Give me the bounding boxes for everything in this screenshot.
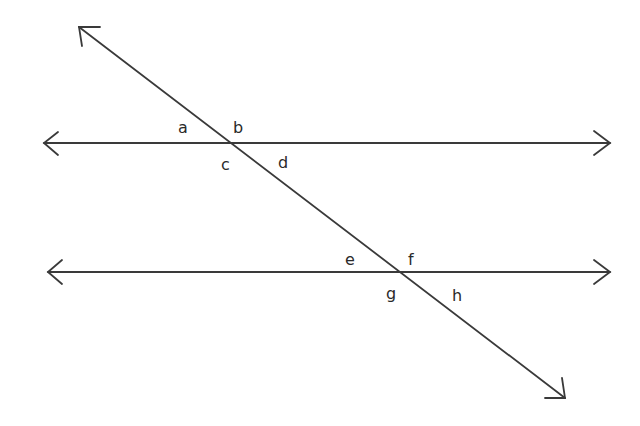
angle-label-e: e — [345, 250, 355, 269]
angle-label-b: b — [233, 118, 243, 137]
angle-label-h: h — [452, 286, 462, 305]
parallel-lines-diagram: a b c d e f g h — [0, 0, 640, 426]
angle-label-g: g — [386, 284, 396, 303]
top-parallel-line — [44, 131, 610, 155]
angle-label-c: c — [221, 155, 230, 174]
angle-label-d: d — [278, 153, 288, 172]
transversal-line — [79, 27, 565, 398]
bottom-parallel-line — [48, 260, 610, 284]
angle-label-a: a — [178, 118, 188, 137]
angle-label-f: f — [408, 250, 414, 269]
